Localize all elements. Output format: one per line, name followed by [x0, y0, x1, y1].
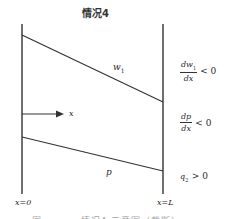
- q2-annotation: q2 > 0: [180, 172, 208, 183]
- diagram-canvas: [0, 0, 227, 219]
- w1-subscript: 1: [121, 67, 125, 74]
- dw1-relation: < 0: [200, 66, 216, 76]
- x-axis-arrow-head-icon: [56, 111, 64, 118]
- dw1-dx-annotation: dw1 dx < 0: [180, 60, 216, 83]
- dw1-numerator: dw1: [180, 60, 197, 73]
- diagram-title: 情况4: [82, 9, 109, 19]
- p-profile-line: [22, 137, 163, 171]
- dw1-denominator: dx: [184, 73, 194, 83]
- w1-profile-line: [22, 35, 163, 102]
- figure-caption-cropped: 图 ·· · · · 情况4 示意图（截断）: [32, 214, 181, 219]
- dp-dx-annotation: dp dx < 0: [180, 112, 211, 133]
- dw1-num-text: dw: [181, 60, 193, 69]
- dp-denominator: dx: [181, 123, 191, 133]
- w1-symbol: w: [113, 62, 121, 72]
- q2-subscript: 2: [185, 177, 188, 183]
- dw1-num-sub: 1: [193, 65, 196, 71]
- left-boundary-label: x=0: [15, 199, 31, 207]
- dp-numerator: dp: [180, 112, 192, 123]
- x-axis-label: x: [69, 110, 74, 118]
- w1-curve-label: w1: [113, 63, 125, 74]
- right-boundary-label: x=L: [157, 199, 174, 207]
- dp-relation: < 0: [195, 118, 211, 128]
- p-curve-label: p: [106, 168, 112, 177]
- q2-relation: > 0: [192, 171, 208, 181]
